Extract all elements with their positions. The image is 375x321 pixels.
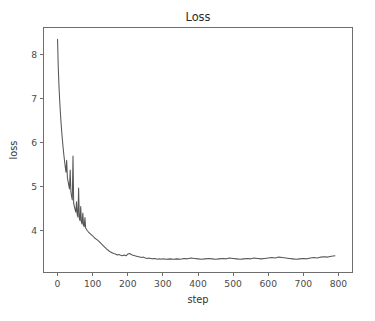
x-axis-label: step	[187, 294, 208, 305]
y-tick-label: 5	[31, 181, 37, 192]
y-tick-label: 4	[31, 225, 37, 236]
chart-title: Loss	[186, 10, 211, 24]
x-tick-label: 100	[84, 278, 102, 289]
y-tick-label: 7	[31, 93, 37, 104]
chart-canvas: Loss 45678 0100200300400500600700800 ste…	[0, 0, 375, 321]
x-tick-label: 0	[55, 278, 61, 289]
x-tick-label: 600	[259, 278, 277, 289]
loss-chart-figure: Loss 45678 0100200300400500600700800 ste…	[0, 0, 375, 321]
x-tick-label: 700	[295, 278, 313, 289]
x-tick-label: 300	[154, 278, 172, 289]
y-axis-label: loss	[8, 141, 19, 160]
y-tick-label: 8	[31, 49, 37, 60]
x-tick-label: 400	[189, 278, 207, 289]
x-tick-label: 800	[330, 278, 348, 289]
x-tick-label: 500	[224, 278, 242, 289]
x-tick-label: 200	[119, 278, 137, 289]
y-tick-label: 6	[31, 137, 37, 148]
